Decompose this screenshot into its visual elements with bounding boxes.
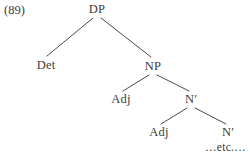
tree-node-nbar-1: N′	[185, 93, 197, 106]
tree-node-np: NP	[145, 60, 161, 73]
tree-branch-lines	[0, 0, 250, 157]
tree-node-adj-1: Adj	[111, 93, 130, 106]
tree-node-nbar-2: N′	[222, 126, 234, 139]
edge-nbar1-nbar2	[195, 108, 226, 124]
tree-node-dp: DP	[89, 3, 105, 16]
etcetera-label: …etc.…	[205, 142, 246, 154]
syntax-tree-figure: (89) DP Det NP Adj N′ Adj N′ …etc.…	[0, 0, 250, 157]
edge-np-adj1	[123, 75, 149, 91]
edge-np-nbar1	[157, 75, 189, 91]
edge-dp-np	[101, 18, 151, 57]
edge-dp-det	[47, 18, 93, 56]
tree-node-det: Det	[37, 59, 56, 72]
edge-nbar1-adj2	[161, 108, 187, 124]
tree-node-adj-2: Adj	[149, 126, 168, 139]
